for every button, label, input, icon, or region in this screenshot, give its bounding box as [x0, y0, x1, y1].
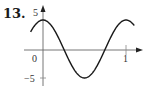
x-tick-label-0: 0 [32, 53, 37, 64]
y-tick-label-5: 5 [33, 7, 38, 18]
x-axis-arrow-icon [136, 48, 143, 53]
cosine-graph: 5 0 1 −5 [0, 0, 149, 98]
y-tick-label-neg5: −5 [24, 73, 35, 84]
y-axis-arrow-icon [41, 5, 46, 12]
x-tick-label-1: 1 [123, 53, 128, 64]
cosine-curve [31, 20, 135, 78]
